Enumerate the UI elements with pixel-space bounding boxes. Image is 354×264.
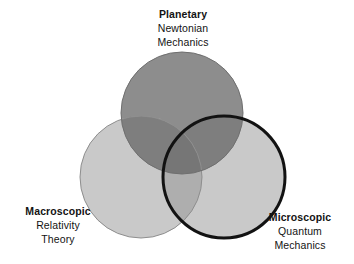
label-microscopic: Microscopic Quantum Mechanics xyxy=(248,211,352,253)
venn-diagram: Planetary Newtonian Mechanics Macroscopi… xyxy=(0,0,354,264)
label-macroscopic-line3: Theory xyxy=(6,233,110,247)
label-planetary-title: Planetary xyxy=(6,8,354,22)
label-macroscopic: Macroscopic Relativity Theory xyxy=(6,205,110,247)
label-macroscopic-line2: Relativity xyxy=(6,219,110,233)
label-microscopic-title: Microscopic xyxy=(248,211,352,225)
label-planetary: Planetary Newtonian Mechanics xyxy=(6,8,354,50)
label-macroscopic-title: Macroscopic xyxy=(6,205,110,219)
label-planetary-line3: Mechanics xyxy=(6,36,354,50)
label-planetary-line2: Newtonian xyxy=(6,22,354,36)
label-microscopic-line2: Quantum xyxy=(248,225,352,239)
label-microscopic-line3: Mechanics xyxy=(248,239,352,253)
